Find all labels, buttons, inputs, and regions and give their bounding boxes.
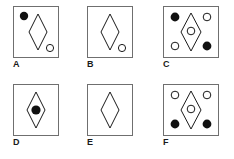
panel-b-label: B [87, 59, 94, 69]
diamond-outline [29, 14, 47, 50]
panel-d-label: D [13, 137, 20, 147]
panel-d[interactable]: D [13, 84, 59, 136]
panel-e[interactable]: E [87, 84, 133, 136]
open-circle-top-left [171, 91, 179, 99]
panel-c-label: C [163, 59, 170, 69]
filled-circle-top-left [20, 12, 28, 20]
open-circle-bottom-right [46, 44, 53, 51]
panel-c[interactable]: C [163, 6, 219, 58]
panel-d-figure [13, 84, 59, 136]
diamond-outline [101, 14, 119, 50]
open-circle-center [187, 27, 195, 35]
open-circle-center [187, 105, 195, 113]
panel-a-figure [13, 6, 59, 58]
open-circle-bottom-left [171, 42, 179, 50]
filled-circle-bottom-right [203, 120, 212, 129]
filled-circle-bottom-left [171, 120, 180, 129]
filled-circle-top-left [171, 13, 180, 22]
panel-e-figure [87, 84, 133, 136]
panel-c-figure [163, 6, 219, 58]
filled-circle-center [31, 105, 40, 114]
panel-a[interactable]: A [13, 6, 59, 58]
panel-f-label: F [163, 137, 169, 147]
panel-f-figure [163, 84, 219, 136]
diamond-outline [101, 92, 119, 128]
filled-circle-bottom-right [203, 42, 212, 51]
panel-f[interactable]: F [163, 84, 219, 136]
panel-a-label: A [13, 59, 20, 69]
panel-e-label: E [87, 137, 93, 147]
open-circle-top-right [203, 91, 211, 99]
open-circle-bottom-right [118, 44, 125, 51]
panel-grid: A B C D E F [0, 0, 234, 159]
panel-b[interactable]: B [87, 6, 133, 58]
open-circle-top-right [203, 13, 211, 21]
panel-b-figure [87, 6, 133, 58]
